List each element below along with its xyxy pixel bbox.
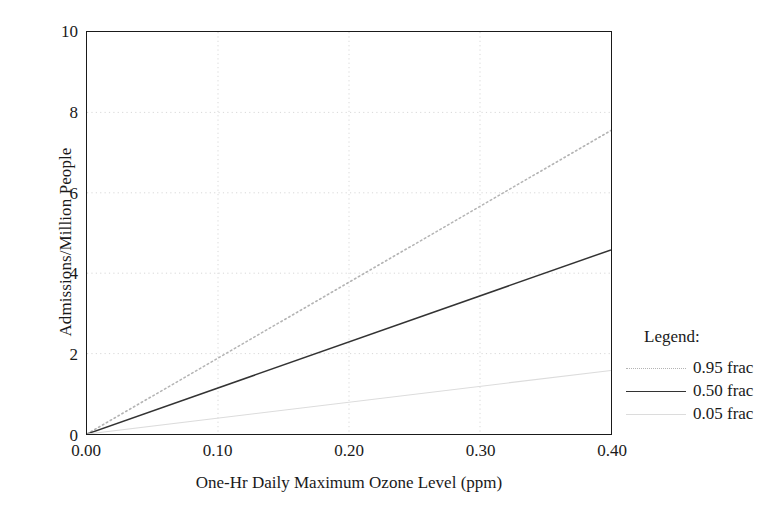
legend-item-label: 0.95 frac [693, 358, 753, 378]
plot-area [86, 31, 612, 435]
x-axis-tick-label: 0.10 [173, 442, 263, 459]
legend-line-swatch [626, 385, 686, 397]
legend-line-swatch [626, 362, 686, 374]
legend-item-label: 0.50 frac [693, 381, 753, 401]
legend-item[interactable]: 0.50 frac [626, 379, 778, 402]
y-axis-tick-labels: 0246810 [14, 31, 78, 435]
y-axis-tick-label: 2 [18, 346, 78, 363]
y-axis-tick-label: 4 [18, 265, 78, 282]
chart-figure: Admissions/Million People 0246810 0.000.… [0, 0, 778, 521]
x-axis-tick-label: 0.30 [436, 442, 526, 459]
legend-item[interactable]: 0.95 frac [626, 356, 778, 379]
y-axis-tick-label: 6 [18, 184, 78, 201]
y-axis-tick-label: 8 [18, 103, 78, 120]
legend-item-label: 0.05 frac [693, 404, 753, 424]
legend-entries: 0.95 frac0.50 frac0.05 frac [626, 356, 778, 425]
legend-item[interactable]: 0.05 frac [626, 402, 778, 425]
data-series-line [87, 250, 611, 434]
legend-line-swatch [626, 408, 686, 420]
x-axis-tick-label: 0.20 [304, 442, 394, 459]
data-series-line [87, 130, 611, 434]
legend: Legend: 0.95 frac0.50 frac0.05 frac [626, 327, 778, 425]
legend-title: Legend: [644, 327, 778, 347]
x-axis-title: One-Hr Daily Maximum Ozone Level (ppm) [86, 473, 612, 493]
y-axis-tick-label: 0 [18, 427, 78, 444]
data-series-layer [87, 32, 611, 434]
data-series-line [87, 370, 611, 434]
y-axis-tick-label: 10 [18, 23, 78, 40]
x-axis-tick-label: 0.00 [41, 442, 131, 459]
x-axis-tick-label: 0.40 [567, 442, 657, 459]
x-axis-tick-labels: 0.000.100.200.300.40 [86, 442, 612, 466]
